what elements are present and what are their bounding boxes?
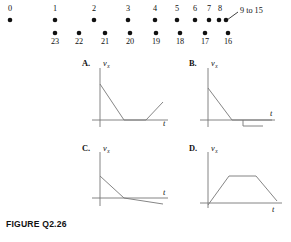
top-row-label: 3 <box>126 4 130 13</box>
top-row-dot <box>193 18 198 23</box>
bottom-row-label: 17 <box>201 37 209 46</box>
top-row-label: 2 <box>92 4 96 13</box>
top-row-label: 0 <box>8 4 12 13</box>
dot-diagram: 0123456782322212019181716 <box>8 4 232 46</box>
velocity-curve <box>100 176 163 204</box>
bottom-row-dot <box>128 31 133 36</box>
bottom-row-dot <box>203 31 208 36</box>
bottom-row-label: 18 <box>176 37 184 46</box>
leader-line-9-to-15 <box>227 12 238 20</box>
annotation-9-to-15: 9 to 15 <box>240 6 263 15</box>
top-row-dot <box>8 18 13 23</box>
figure-q2-26: 0123456782322212019181716 9 to 15 A.vxtB… <box>0 0 291 242</box>
panel-letter: C. <box>82 144 90 153</box>
figure-caption: FIGURE Q2.26 <box>6 219 67 229</box>
panel-letter: D. <box>189 144 197 153</box>
velocity-curve <box>208 88 272 120</box>
bottom-row-dot <box>154 31 159 36</box>
y-axis-label-subscript: x <box>106 148 110 154</box>
top-row-label: 4 <box>153 4 157 13</box>
graph-panel-c: C.vxt <box>82 144 168 206</box>
top-row-label: 1 <box>53 4 57 13</box>
y-axis-label-subscript: x <box>106 63 110 69</box>
velocity-curve-step <box>243 120 263 126</box>
bottom-row-label: 22 <box>75 37 83 46</box>
bottom-row-dot <box>53 31 58 36</box>
top-row-label: 8 <box>218 4 222 13</box>
panel-letter: A. <box>82 59 90 68</box>
top-row-dot <box>92 18 97 23</box>
bottom-row-label: 21 <box>101 37 109 46</box>
graph-panel-a: A.vxt <box>82 59 168 128</box>
bottom-row-label: 19 <box>152 37 160 46</box>
bottom-row-label: 20 <box>126 37 134 46</box>
bottom-row-dot <box>77 31 82 36</box>
graph-panel-b: B.vxt <box>189 59 275 127</box>
bottom-row-dot <box>178 31 183 36</box>
bottom-row-label: 16 <box>224 37 232 46</box>
y-axis-label-subscript: x <box>214 63 218 69</box>
top-row-label: 6 <box>193 4 197 13</box>
top-row-dot <box>207 18 212 23</box>
bottom-row-dot <box>226 31 231 36</box>
panel-letter: B. <box>189 59 197 68</box>
top-row-dot <box>126 18 131 23</box>
x-axis-label: t <box>163 188 166 197</box>
velocity-graph-panels: A.vxtB.vxtC.vxtD.vxt <box>82 59 282 214</box>
top-row-dot <box>217 18 222 23</box>
bottom-row-dot <box>103 31 108 36</box>
graph-panel-d: D.vxt <box>189 144 282 214</box>
y-axis-label-subscript: x <box>214 148 218 154</box>
x-axis-label: t <box>272 205 275 214</box>
velocity-curve <box>208 176 277 205</box>
top-row-dot <box>175 18 180 23</box>
x-axis-label: t <box>270 109 273 118</box>
top-row-label: 5 <box>175 4 179 13</box>
top-row-label: 7 <box>207 4 211 13</box>
bottom-row-label: 23 <box>51 37 59 46</box>
top-row-dot <box>53 18 58 23</box>
velocity-curve <box>100 84 163 120</box>
top-row-dot <box>153 18 158 23</box>
figure-canvas: 0123456782322212019181716 9 to 15 A.vxtB… <box>0 0 291 242</box>
